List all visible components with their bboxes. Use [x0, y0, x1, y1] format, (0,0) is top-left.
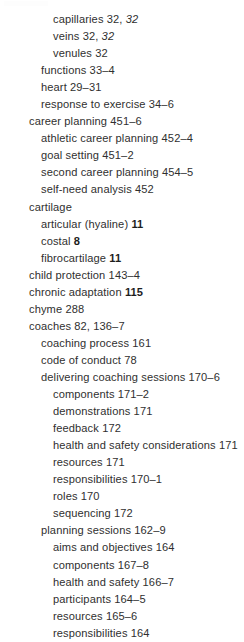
index-entry-term: planning sessions [41, 524, 131, 536]
index-entry-term: demonstrations [53, 405, 130, 417]
index-entry-term: functions [41, 64, 86, 76]
index-entry-pages: 29–31 [70, 81, 101, 93]
index-entry-term: participants [53, 593, 111, 605]
index-entry-pages: 78 [124, 354, 137, 366]
index-entry-term: code of conduct [41, 354, 121, 366]
index-entry-pages-bold: 8 [74, 235, 80, 247]
index-entry-term: second career planning [41, 166, 159, 178]
index-entry-term: capillaries [53, 13, 104, 25]
index-entry-pages-italic: 32 [126, 13, 139, 25]
index-entry: delivering coaching sessions 170–6 [0, 369, 244, 386]
index-entry-pages: 170–1 [131, 473, 162, 485]
index-entry-term: components [53, 388, 115, 400]
index-entry-term: sequencing [53, 507, 111, 519]
index-entry-term: coaching process [41, 337, 129, 349]
index-entry-term: veins [53, 30, 79, 42]
index-entry: health and safety 166–7 [0, 574, 244, 591]
index-entry-pages: 32, [107, 13, 126, 25]
index-entry-list: capillaries 32, 32veins 32, 32venules 32… [0, 11, 244, 642]
index-entry-term: career planning [29, 115, 107, 127]
index-entry-pages: 170–6 [189, 371, 220, 383]
index-entry-pages: 167–8 [118, 559, 149, 571]
index-entry: athletic career planning 452–4 [0, 130, 244, 147]
index-entry: code of conduct 78 [0, 352, 244, 369]
index-entry: participants 164–5 [0, 591, 244, 608]
index-entry-term: roles [53, 490, 78, 502]
index-entry: capillaries 32, 32 [0, 11, 244, 28]
index-entry-term: resources [53, 610, 103, 622]
index-entry-term: components [53, 559, 115, 571]
index-entry: chronic adaptation 115 [0, 284, 244, 301]
index-entry-pages: 162–9 [134, 524, 165, 536]
index-entry-term: responsibilities [53, 627, 128, 639]
index-entry: fibrocartilage 11 [0, 250, 244, 267]
index-entry-pages: 451–2 [102, 149, 133, 161]
index-entry-term: athletic career planning [41, 132, 158, 144]
index-entry: resources 165–6 [0, 608, 244, 625]
index-entry: veins 32, 32 [0, 28, 244, 45]
index-entry: resources 171 [0, 454, 244, 471]
index-entry-pages: 451–6 [110, 115, 141, 127]
index-entry: venules 32 [0, 45, 244, 62]
index-entry-pages: 33–4 [90, 64, 115, 76]
index-entry-pages: 171 [134, 405, 153, 417]
index-entry-pages: 164 [156, 541, 175, 553]
index-entry-term: chyme [29, 303, 62, 315]
index-entry-pages: 34–6 [149, 98, 174, 110]
index-entry-term: responsibilities [53, 473, 128, 485]
index-entry: planning sessions 162–9 [0, 522, 244, 539]
index-entry-term: aims and objectives [53, 541, 153, 553]
index-entry: response to exercise 34–6 [0, 96, 244, 113]
index-entry-term: coaches [29, 320, 71, 332]
index-entry-pages: 452 [135, 183, 154, 195]
index-entry: career planning 451–6 [0, 113, 244, 130]
index-entry-term: cartilage [29, 201, 72, 213]
index-entry-pages: 171 [106, 456, 125, 468]
index-entry-term: articular (hyaline) [41, 218, 128, 230]
index-entry: responsibilities 170–1 [0, 471, 244, 488]
index-entry: child protection 143–4 [0, 267, 244, 284]
index-entry-term: delivering coaching sessions [41, 371, 185, 383]
index-entry: functions 33–4 [0, 62, 244, 79]
index-entry-pages: 32, [83, 30, 102, 42]
index-entry: articular (hyaline) 11 [0, 216, 244, 233]
index-entry: components 171–2 [0, 386, 244, 403]
index-entry-pages-italic: 32 [102, 30, 115, 42]
index-entry-pages: 164 [131, 627, 150, 639]
index-entry: goal setting 451–2 [0, 147, 244, 164]
index-entry: aims and objectives 164 [0, 539, 244, 556]
index-entry: sequencing 172 [0, 505, 244, 522]
index-entry-term: venules [53, 47, 92, 59]
index-entry-term: health and safety considerations [53, 439, 216, 451]
index-entry-pages-bold: 11 [109, 252, 121, 264]
index-entry-pages-bold: 115 [125, 286, 143, 298]
index-entry: self-need analysis 452 [0, 181, 244, 198]
index-entry-pages: 143–4 [109, 269, 140, 281]
index-entry-term: goal setting [41, 149, 99, 161]
index-entry-pages: 166–7 [143, 576, 174, 588]
index-entry: roles 170 [0, 488, 244, 505]
index-entry: coaches 82, 136–7 [0, 318, 244, 335]
index-entry-term: response to exercise [41, 98, 146, 110]
index-entry: demonstrations 171 [0, 403, 244, 420]
index-entry-term: heart [41, 81, 67, 93]
index-entry-pages: 452–4 [162, 132, 193, 144]
index-entry-pages: 161 [132, 337, 151, 349]
index-entry-pages-bold: 11 [131, 218, 143, 230]
index-entry-pages: 82, 136–7 [74, 320, 124, 332]
index-entry-pages: 172 [102, 422, 121, 434]
index-entry-pages: 171 [219, 439, 238, 451]
index-entry-pages: 288 [65, 303, 84, 315]
index-entry: costal 8 [0, 233, 244, 250]
index-entry-term: chronic adaptation [29, 286, 122, 298]
clipped-line-artifact [4, 1, 48, 6]
index-entry: cartilage [0, 199, 244, 216]
index-entry-pages: 171–2 [118, 388, 149, 400]
index-entry-term: fibrocartilage [41, 252, 106, 264]
index-entry-pages: 32 [95, 47, 108, 59]
index-entry: components 167–8 [0, 557, 244, 574]
index-entry: chyme 288 [0, 301, 244, 318]
index-entry-term: feedback [53, 422, 99, 434]
index-entry: heart 29–31 [0, 79, 244, 96]
